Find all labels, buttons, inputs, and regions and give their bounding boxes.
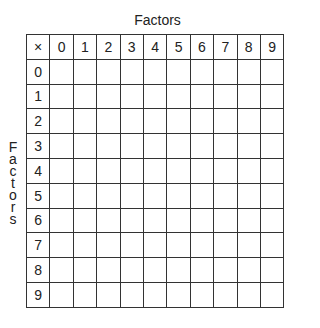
- product-cell[interactable]: [214, 183, 237, 208]
- product-cell[interactable]: [167, 134, 190, 159]
- product-cell[interactable]: [167, 258, 190, 283]
- product-cell[interactable]: [214, 134, 237, 159]
- product-cell[interactable]: [214, 282, 237, 307]
- product-cell[interactable]: [50, 282, 73, 307]
- product-cell[interactable]: [237, 158, 260, 183]
- product-cell[interactable]: [214, 84, 237, 109]
- product-cell[interactable]: [190, 258, 213, 283]
- product-cell[interactable]: [167, 282, 190, 307]
- product-cell[interactable]: [73, 208, 96, 233]
- product-cell[interactable]: [97, 84, 120, 109]
- product-cell[interactable]: [214, 59, 237, 84]
- product-cell[interactable]: [50, 84, 73, 109]
- product-cell[interactable]: [190, 233, 213, 258]
- product-cell[interactable]: [260, 109, 283, 134]
- product-cell[interactable]: [50, 183, 73, 208]
- product-cell[interactable]: [190, 134, 213, 159]
- product-cell[interactable]: [73, 233, 96, 258]
- product-cell[interactable]: [237, 282, 260, 307]
- product-cell[interactable]: [167, 183, 190, 208]
- product-cell[interactable]: [190, 109, 213, 134]
- product-cell[interactable]: [190, 84, 213, 109]
- product-cell[interactable]: [120, 258, 143, 283]
- product-cell[interactable]: [143, 158, 166, 183]
- product-cell[interactable]: [120, 84, 143, 109]
- product-cell[interactable]: [214, 258, 237, 283]
- product-cell[interactable]: [50, 208, 73, 233]
- product-cell[interactable]: [190, 208, 213, 233]
- product-cell[interactable]: [167, 158, 190, 183]
- product-cell[interactable]: [260, 84, 283, 109]
- product-cell[interactable]: [73, 183, 96, 208]
- product-cell[interactable]: [97, 183, 120, 208]
- product-cell[interactable]: [260, 183, 283, 208]
- product-cell[interactable]: [73, 109, 96, 134]
- product-cell[interactable]: [214, 233, 237, 258]
- product-cell[interactable]: [260, 158, 283, 183]
- product-cell[interactable]: [237, 183, 260, 208]
- product-cell[interactable]: [143, 134, 166, 159]
- product-cell[interactable]: [73, 84, 96, 109]
- product-cell[interactable]: [97, 208, 120, 233]
- product-cell[interactable]: [120, 109, 143, 134]
- product-cell[interactable]: [260, 134, 283, 159]
- product-cell[interactable]: [237, 258, 260, 283]
- product-cell[interactable]: [97, 134, 120, 159]
- product-cell[interactable]: [237, 109, 260, 134]
- product-cell[interactable]: [143, 183, 166, 208]
- product-cell[interactable]: [143, 282, 166, 307]
- product-cell[interactable]: [190, 59, 213, 84]
- product-cell[interactable]: [73, 134, 96, 159]
- product-cell[interactable]: [167, 208, 190, 233]
- product-cell[interactable]: [120, 208, 143, 233]
- product-cell[interactable]: [214, 158, 237, 183]
- product-cell[interactable]: [143, 208, 166, 233]
- product-cell[interactable]: [50, 134, 73, 159]
- product-cell[interactable]: [167, 59, 190, 84]
- product-cell[interactable]: [97, 233, 120, 258]
- product-cell[interactable]: [167, 84, 190, 109]
- product-cell[interactable]: [73, 258, 96, 283]
- product-cell[interactable]: [190, 282, 213, 307]
- product-cell[interactable]: [73, 158, 96, 183]
- product-cell[interactable]: [97, 258, 120, 283]
- product-cell[interactable]: [120, 282, 143, 307]
- product-cell[interactable]: [97, 282, 120, 307]
- product-cell[interactable]: [120, 134, 143, 159]
- product-cell[interactable]: [260, 59, 283, 84]
- product-cell[interactable]: [260, 282, 283, 307]
- product-cell[interactable]: [120, 59, 143, 84]
- product-cell[interactable]: [50, 233, 73, 258]
- product-cell[interactable]: [120, 233, 143, 258]
- product-cell[interactable]: [143, 59, 166, 84]
- product-cell[interactable]: [214, 208, 237, 233]
- product-cell[interactable]: [143, 258, 166, 283]
- product-cell[interactable]: [143, 84, 166, 109]
- product-cell[interactable]: [143, 109, 166, 134]
- product-cell[interactable]: [190, 158, 213, 183]
- product-cell[interactable]: [97, 59, 120, 84]
- product-cell[interactable]: [214, 109, 237, 134]
- product-cell[interactable]: [50, 59, 73, 84]
- product-cell[interactable]: [97, 109, 120, 134]
- product-cell[interactable]: [260, 208, 283, 233]
- product-cell[interactable]: [50, 158, 73, 183]
- product-cell[interactable]: [260, 258, 283, 283]
- product-cell[interactable]: [73, 282, 96, 307]
- product-cell[interactable]: [237, 208, 260, 233]
- product-cell[interactable]: [50, 258, 73, 283]
- product-cell[interactable]: [167, 233, 190, 258]
- product-cell[interactable]: [237, 59, 260, 84]
- product-cell[interactable]: [50, 109, 73, 134]
- product-cell[interactable]: [260, 233, 283, 258]
- product-cell[interactable]: [167, 109, 190, 134]
- product-cell[interactable]: [120, 183, 143, 208]
- product-cell[interactable]: [237, 233, 260, 258]
- product-cell[interactable]: [97, 158, 120, 183]
- product-cell[interactable]: [190, 183, 213, 208]
- product-cell[interactable]: [120, 158, 143, 183]
- product-cell[interactable]: [143, 233, 166, 258]
- product-cell[interactable]: [73, 59, 96, 84]
- product-cell[interactable]: [237, 134, 260, 159]
- product-cell[interactable]: [237, 84, 260, 109]
